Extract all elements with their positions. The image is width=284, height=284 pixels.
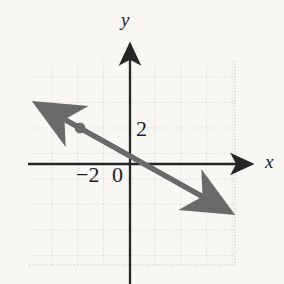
- x-tick-label-negative-2: −2: [76, 164, 99, 186]
- x-axis-label: x: [265, 152, 273, 171]
- y-axis-label: y: [121, 10, 129, 29]
- y-tick-label-2: 2: [136, 118, 147, 140]
- data-point-1: [75, 123, 86, 134]
- origin-label: 0: [112, 164, 123, 186]
- graph-figure: [0, 0, 284, 284]
- data-point-2: [208, 197, 219, 208]
